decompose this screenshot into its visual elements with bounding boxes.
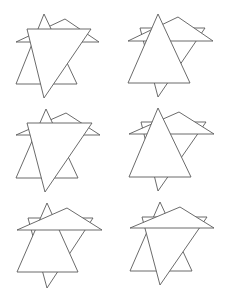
figure-5 [17, 203, 102, 288]
figure-2 [128, 14, 213, 97]
downward-triangle [27, 123, 92, 192]
figure-4 [129, 108, 214, 191]
figure-3 [16, 109, 100, 192]
triangle-puzzle-diagram [0, 0, 225, 293]
figure-6 [130, 202, 214, 285]
figure-1 [16, 14, 99, 98]
downward-triangle [27, 29, 91, 98]
